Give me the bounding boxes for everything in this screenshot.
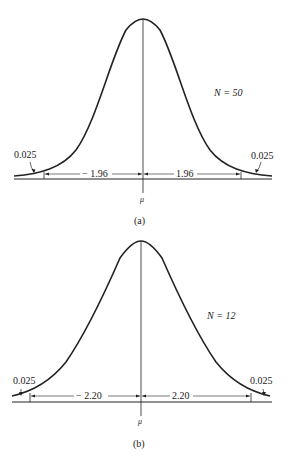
right-crit-label-a: 1.96	[176, 169, 194, 179]
right-tail-label-a: 0.025	[251, 151, 274, 161]
left-tail-label-a: 0.025	[14, 150, 37, 160]
figure-canvas	[0, 0, 287, 460]
right-crit-label-b: 2.20	[172, 391, 190, 401]
mean-label-a: μ	[140, 196, 144, 204]
sample-size-label-a: N = 50	[214, 88, 242, 98]
sample-size-label-b: N = 12	[207, 311, 235, 321]
panel-a	[14, 19, 272, 193]
panel-b	[12, 241, 272, 416]
mean-label-b: μ	[138, 418, 142, 426]
right-tail-label-b: 0.025	[250, 376, 273, 386]
caption-a: (a)	[134, 216, 145, 226]
left-tail-label-b: 0.025	[13, 376, 36, 386]
left-crit-label-b: − 2.20	[76, 391, 102, 401]
left-crit-label-a: − 1.96	[82, 169, 108, 179]
caption-b: (b)	[133, 439, 145, 449]
